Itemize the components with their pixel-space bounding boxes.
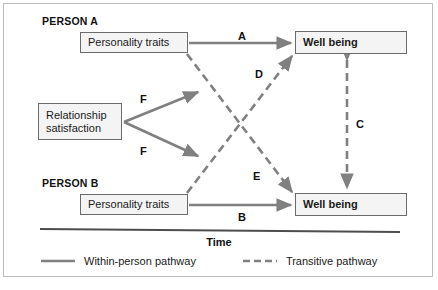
legend-solid-line-icon bbox=[40, 253, 76, 269]
node-label: Well being bbox=[303, 36, 358, 48]
node-label-line2: satisfaction bbox=[46, 122, 101, 134]
path-label-b: B bbox=[238, 211, 246, 223]
legend-item-transitive-pathway: Transitive pathway bbox=[242, 253, 377, 269]
legend-label: Transitive pathway bbox=[286, 255, 377, 267]
legend-dashed-line-icon bbox=[242, 253, 278, 269]
node-label: Well being bbox=[303, 198, 358, 210]
pathway-f-lower-line bbox=[124, 122, 198, 156]
legend-label: Within-person pathway bbox=[84, 255, 196, 267]
group-title-person-a: PERSON A bbox=[42, 15, 98, 27]
path-label-c: C bbox=[356, 118, 364, 130]
path-label-f-upper: F bbox=[140, 93, 147, 105]
node-person-a-personality-traits[interactable]: Personality traits bbox=[80, 32, 188, 53]
node-person-b-well-being[interactable]: Well being bbox=[295, 193, 407, 216]
node-label: Personality traits bbox=[88, 198, 169, 210]
path-label-e: E bbox=[253, 170, 260, 182]
path-label-a: A bbox=[238, 30, 246, 42]
time-axis-label: Time bbox=[0, 236, 438, 248]
legend: Within-person pathway Transitive pathway bbox=[40, 253, 400, 269]
legend-item-within-person-pathway: Within-person pathway bbox=[40, 253, 196, 269]
node-label-wrapper: Relationship satisfaction bbox=[46, 109, 107, 134]
pathway-f-upper-line bbox=[124, 92, 198, 122]
group-title-person-b: PERSON B bbox=[42, 177, 98, 189]
path-label-d: D bbox=[255, 68, 263, 80]
node-label-line1: Relationship bbox=[46, 109, 107, 121]
node-relationship-satisfaction[interactable]: Relationship satisfaction bbox=[38, 103, 122, 140]
time-axis-line bbox=[40, 229, 400, 232]
node-label: Personality traits bbox=[88, 36, 169, 48]
figure-container: PERSON A PERSON B Personality traits Wel… bbox=[0, 0, 438, 290]
node-person-a-well-being[interactable]: Well being bbox=[295, 31, 407, 54]
path-label-f-lower: F bbox=[140, 145, 147, 157]
node-person-b-personality-traits[interactable]: Personality traits bbox=[80, 194, 188, 215]
